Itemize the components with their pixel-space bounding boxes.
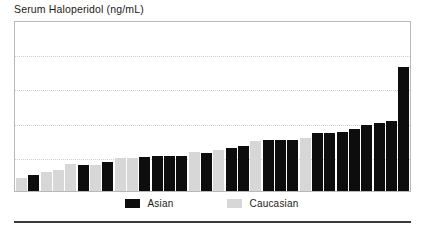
bar: [374, 123, 385, 191]
bar: [250, 141, 261, 191]
bar: [213, 150, 224, 191]
bar: [324, 133, 335, 191]
chart-figure: Serum Haloperidol (ng/mL) Asian Caucasia…: [0, 0, 424, 231]
legend-label-caucasian: Caucasian: [249, 198, 298, 209]
bar: [349, 129, 360, 191]
bar: [275, 140, 286, 191]
legend-entry-asian: Asian: [125, 198, 173, 209]
bar: [115, 158, 126, 191]
bar: [41, 172, 52, 191]
bar: [312, 133, 323, 191]
bar: [238, 146, 249, 191]
bar: [398, 67, 409, 191]
bar: [263, 140, 274, 191]
bar: [16, 178, 27, 191]
plot-area: [14, 21, 411, 192]
bar: [201, 153, 212, 191]
bar: [65, 164, 76, 191]
bar: [90, 165, 101, 191]
bar: [152, 156, 163, 191]
bar: [127, 158, 138, 191]
legend-label-asian: Asian: [147, 198, 173, 209]
bar: [287, 140, 298, 191]
chart-legend: Asian Caucasian: [0, 198, 424, 209]
chart-title: Serum Haloperidol (ng/mL): [14, 3, 144, 15]
bar: [102, 162, 113, 191]
bar: [176, 156, 187, 191]
bar: [28, 175, 39, 191]
bar: [361, 125, 372, 191]
bar: [164, 156, 175, 191]
legend-entry-caucasian: Caucasian: [227, 198, 298, 209]
bar: [337, 132, 348, 191]
bottom-rule: [14, 221, 411, 223]
legend-swatch-asian: [125, 199, 140, 208]
bar: [300, 138, 311, 191]
legend-swatch-caucasian: [227, 199, 242, 208]
bar: [139, 157, 150, 191]
bars-group: [15, 22, 410, 191]
bar: [386, 121, 397, 191]
bar: [226, 148, 237, 191]
bar: [53, 170, 64, 191]
bar: [189, 152, 200, 191]
bar: [78, 165, 89, 191]
